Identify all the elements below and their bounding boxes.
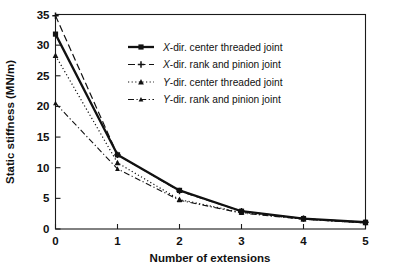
y-axis-tick-labels: 05101520253035 <box>37 9 50 236</box>
x-axis-ticks <box>56 224 366 229</box>
legend-label: Y-dir. rank and pinion joint <box>163 94 281 105</box>
legend-label: X-dir. rank and pinion joint <box>162 59 281 70</box>
legend-label: Y-dir. center threaded joint <box>163 77 283 88</box>
legend-item-3: Y-dir. center threaded joint <box>128 77 283 88</box>
chart-legend: X-dir. center threaded jointX-dir. rank … <box>128 42 283 106</box>
y-tick-label: 0 <box>43 223 49 235</box>
data-point-marker <box>53 32 58 37</box>
y-tick-label: 20 <box>37 100 50 112</box>
y-axis-ticks <box>56 15 61 230</box>
x-tick-label: 1 <box>114 235 121 247</box>
x-tick-label: 3 <box>238 235 244 247</box>
y-tick-label: 25 <box>37 70 50 82</box>
legend-item-1: X-dir. center threaded joint <box>128 42 283 53</box>
y-tick-label: 10 <box>37 162 50 174</box>
data-point-marker <box>53 52 59 58</box>
y-tick-label: 5 <box>43 192 50 204</box>
x-tick-label: 0 <box>52 235 58 247</box>
y-tick-label: 30 <box>37 39 50 51</box>
series-path <box>56 103 366 223</box>
x-tick-label: 4 <box>300 235 307 247</box>
x-tick-label: 2 <box>176 235 182 247</box>
y-tick-label: 35 <box>37 9 50 21</box>
data-point-marker <box>53 101 58 106</box>
y-tick-label: 15 <box>37 131 50 143</box>
legend-label: X-dir. center threaded joint <box>162 42 283 53</box>
x-tick-label: 5 <box>362 235 369 247</box>
chart-figure: 05101520253035 012345 Number of extensio… <box>0 0 395 268</box>
y-axis-title: Static stiffness (MN/m) <box>4 60 16 184</box>
x-axis-title: Number of extensions <box>150 252 271 264</box>
legend-item-2: X-dir. rank and pinion joint <box>128 59 281 70</box>
legend-item-4: Y-dir. rank and pinion joint <box>128 94 281 105</box>
static-stiffness-line-chart: 05101520253035 012345 Number of extensio… <box>0 0 395 268</box>
data-point-marker <box>115 160 121 166</box>
data-point-marker <box>138 44 143 49</box>
x-axis-tick-labels: 012345 <box>52 235 369 247</box>
